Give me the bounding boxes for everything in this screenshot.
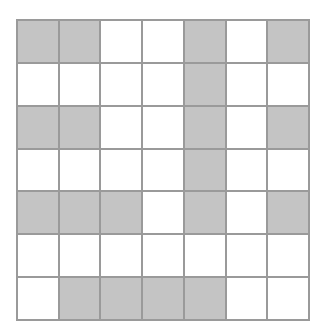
grid-cell-shaded: shaded <box>142 277 184 320</box>
grid-cell-label: shaded <box>101 278 141 319</box>
grid-cell-label: shaded <box>268 192 308 233</box>
grid-cell-label: white <box>143 21 183 62</box>
grid-row: shadedshadedshadedwhiteshadedwhiteshaded <box>17 191 309 234</box>
grid-cell-empty: white <box>226 106 268 149</box>
grid-cell-shaded: shaded <box>184 20 226 63</box>
grid-cell-label: white <box>227 278 267 319</box>
grid-cell-label: white <box>101 107 141 148</box>
grid-cell-empty: white <box>17 149 59 192</box>
grid-cell-label: shaded <box>268 21 308 62</box>
grid-cell-empty: white <box>100 20 142 63</box>
grid-cell-label: white <box>143 235 183 276</box>
grid-cell-empty: white <box>17 277 59 320</box>
grid-cell-label: white <box>18 235 58 276</box>
grid-cell-label: white <box>227 64 267 105</box>
grid-cell-shaded: shaded <box>100 277 142 320</box>
grid-cell-empty: white <box>267 149 309 192</box>
grid-cell-empty: white <box>142 20 184 63</box>
grid-cell-label: shaded <box>185 21 225 62</box>
grid-cell-label: white <box>18 64 58 105</box>
grid-cell-label: shaded <box>18 21 58 62</box>
grid-cell-empty: white <box>100 106 142 149</box>
grid-cell-empty: white <box>226 191 268 234</box>
grid-figure: shadedshadedwhitewhiteshadedwhiteshadedw… <box>16 19 310 321</box>
grid-cell-label: white <box>227 192 267 233</box>
grid-cell-shaded: shaded <box>184 149 226 192</box>
grid-cell-label: white <box>143 64 183 105</box>
grid-cell-label: shaded <box>268 107 308 148</box>
grid-cell-label: white <box>227 21 267 62</box>
grid-cell-shaded: shaded <box>184 277 226 320</box>
grid-cell-label: white <box>60 150 100 191</box>
grid-cell-shaded: shaded <box>17 106 59 149</box>
grid-cell-empty: white <box>184 234 226 277</box>
grid-cell-shaded: shaded <box>184 106 226 149</box>
grid-cell-empty: white <box>142 63 184 106</box>
grid-cell-label: shaded <box>185 278 225 319</box>
grid-cell-label: white <box>227 150 267 191</box>
grid-cell-empty: white <box>226 234 268 277</box>
grid-cell-label: shaded <box>18 107 58 148</box>
grid-cell-label: white <box>143 150 183 191</box>
grid-cell-empty: white <box>226 63 268 106</box>
grid-cell-label: white <box>268 278 308 319</box>
grid-cell-empty: white <box>267 63 309 106</box>
grid-cell-empty: white <box>17 63 59 106</box>
grid-row: whitewhitewhitewhiteshadedwhitewhite <box>17 149 309 192</box>
grid-cell-label: shaded <box>101 192 141 233</box>
grid-cell-empty: white <box>100 63 142 106</box>
grid-cell-label: white <box>227 107 267 148</box>
grid-cell-label: white <box>143 192 183 233</box>
grid-cell-shaded: shaded <box>59 20 101 63</box>
grid-cell-label: shaded <box>60 107 100 148</box>
grid-cell-label: shaded <box>60 21 100 62</box>
grid-cell-shaded: shaded <box>267 20 309 63</box>
grid-cell-label: white <box>101 64 141 105</box>
grid-cell-label: white <box>18 278 58 319</box>
grid-cell-label: shaded <box>143 278 183 319</box>
grid-cell-empty: white <box>17 234 59 277</box>
grid-row: whitewhitewhitewhitewhitewhitewhite <box>17 234 309 277</box>
grid-cell-label: shaded <box>60 278 100 319</box>
grid-cell-empty: white <box>59 63 101 106</box>
grid-cell-shaded: shaded <box>17 191 59 234</box>
grid-row: shadedshadedwhitewhiteshadedwhiteshaded <box>17 106 309 149</box>
grid-cell-empty: white <box>100 149 142 192</box>
grid-cell-label: shaded <box>60 192 100 233</box>
grid-cell-empty: white <box>142 191 184 234</box>
grid-cell-empty: white <box>142 106 184 149</box>
grid-body: shadedshadedwhitewhiteshadedwhiteshadedw… <box>17 20 309 320</box>
grid-cell-empty: white <box>226 20 268 63</box>
grid-row: whitewhitewhitewhiteshadedwhitewhite <box>17 63 309 106</box>
grid-cell-empty: white <box>226 277 268 320</box>
grid-cell-label: white <box>227 235 267 276</box>
grid-cell-shaded: shaded <box>184 63 226 106</box>
grid-table: shadedshadedwhitewhiteshadedwhiteshadedw… <box>16 19 310 321</box>
grid-cell-shaded: shaded <box>17 20 59 63</box>
grid-cell-empty: white <box>142 149 184 192</box>
grid-cell-label: white <box>185 235 225 276</box>
grid-cell-empty: white <box>100 234 142 277</box>
grid-cell-label: white <box>101 21 141 62</box>
grid-cell-shaded: shaded <box>59 277 101 320</box>
grid-cell-shaded: shaded <box>267 191 309 234</box>
grid-cell-label: white <box>18 150 58 191</box>
grid-cell-shaded: shaded <box>184 191 226 234</box>
grid-cell-label: white <box>101 150 141 191</box>
grid-cell-label: shaded <box>185 150 225 191</box>
grid-cell-label: shaded <box>185 192 225 233</box>
grid-cell-empty: white <box>59 149 101 192</box>
grid-row: shadedshadedwhitewhiteshadedwhiteshaded <box>17 20 309 63</box>
grid-cell-empty: white <box>59 234 101 277</box>
grid-cell-empty: white <box>267 277 309 320</box>
grid-cell-label: white <box>60 64 100 105</box>
grid-cell-label: white <box>60 235 100 276</box>
grid-cell-shaded: shaded <box>59 106 101 149</box>
grid-cell-shaded: shaded <box>267 106 309 149</box>
grid-cell-label: white <box>268 150 308 191</box>
grid-cell-label: white <box>101 235 141 276</box>
grid-cell-empty: white <box>267 234 309 277</box>
grid-cell-label: shaded <box>185 64 225 105</box>
grid-cell-label: white <box>268 235 308 276</box>
grid-cell-label: shaded <box>185 107 225 148</box>
